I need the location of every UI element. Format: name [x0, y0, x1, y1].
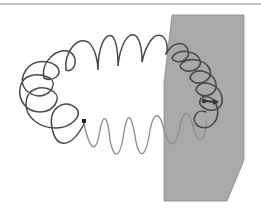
diagram-canvas	[0, 0, 261, 209]
toroid-diagram	[0, 0, 261, 209]
wire-end-terminal	[82, 119, 86, 123]
